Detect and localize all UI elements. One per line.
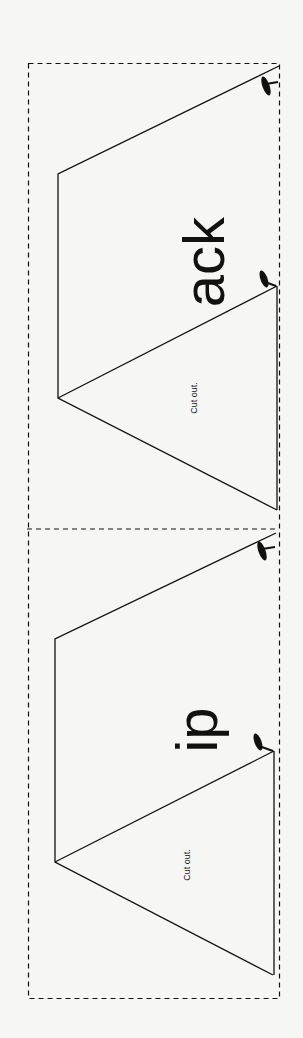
pin-icon xyxy=(259,75,278,96)
top-panel-shape xyxy=(58,66,279,510)
panel-big-text-bottom: ip xyxy=(168,690,228,770)
pin-icon xyxy=(255,540,275,561)
pin-icon xyxy=(258,269,276,288)
cut-out-label-bottom: Cut out. xyxy=(183,835,195,895)
cut-out-label-top: Cut out. xyxy=(190,368,202,428)
panel-big-text-top: ack xyxy=(175,207,235,317)
dashed-cut-border xyxy=(29,64,280,999)
pin-icon xyxy=(252,732,273,751)
bottom-panel-shape xyxy=(55,533,276,975)
cutout-template xyxy=(0,0,303,1038)
